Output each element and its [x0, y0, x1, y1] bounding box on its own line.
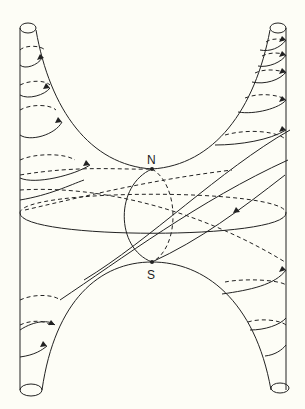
upper-surface-curve: [36, 30, 270, 169]
label-south: S: [147, 268, 155, 282]
lower-surface-curve: [42, 262, 271, 390]
north-point: [150, 167, 154, 171]
right-tube: [270, 23, 289, 393]
right-helices: [215, 39, 286, 356]
south-point: [150, 260, 154, 264]
left-tube: [20, 23, 42, 396]
equatorial-ellipse: [20, 194, 286, 233]
arrow-icons: [37, 36, 286, 347]
label-north: N: [147, 153, 156, 167]
diagram-canvas: N S: [0, 0, 305, 409]
